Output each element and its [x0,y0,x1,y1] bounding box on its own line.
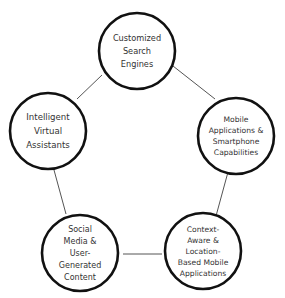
label-line: Intelligent [26,110,69,124]
node-label-mobile: Mobile Applications & Smartphone Capabil… [201,112,271,160]
label-line: Context- [187,224,220,235]
label-line: Engines [121,58,153,71]
label-line: Customized [113,32,161,45]
label-line: Location- [186,246,221,257]
label-line: Capabilities [214,147,258,158]
label-line: Based Mobile [178,257,229,268]
edge-social-assistants [54,170,66,214]
label-line: Media & [64,236,97,248]
node-label-social: Social Media & User- Generated Content [45,224,115,284]
label-line: Generated [59,260,101,272]
label-line: Social [68,224,92,236]
label-line: Mobile [224,114,249,125]
label-line: Aware & [187,235,219,246]
edge-mobile-context [216,172,228,216]
label-line: Applications [180,268,226,279]
node-label-context: Context- Aware & Location- Based Mobile … [168,222,238,280]
node-label-assistants: Intelligent Virtual Assistants [13,106,83,156]
label-line: User- [70,248,91,260]
edge-search-mobile [173,66,215,99]
edge-assistants-search [77,75,102,99]
label-line: Search [123,45,151,58]
node-label-search: Customized Search Engines [102,26,172,76]
label-line: Virtual [34,124,62,138]
label-line: Applications & [209,125,264,136]
label-line: Assistants [26,138,70,152]
label-line: Content [64,272,96,284]
label-line: Smartphone [213,136,260,147]
